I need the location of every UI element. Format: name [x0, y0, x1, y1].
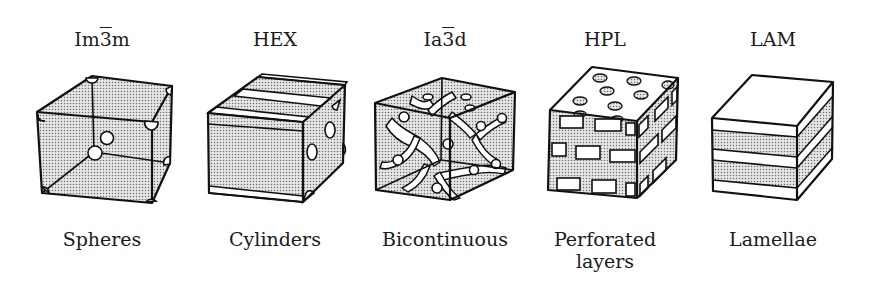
symbol-suffix: d	[454, 28, 466, 50]
phase-name-spheres: Spheres	[47, 228, 157, 250]
spheres-cube-icon	[37, 76, 172, 203]
symbol-suffix: m	[112, 28, 130, 50]
lamellae-cube-icon	[712, 75, 833, 200]
phase-name-cylinders: Cylinders	[215, 228, 335, 250]
phase-symbol-hpl: HPL	[565, 28, 645, 50]
symbol-overbar-digit: 3	[442, 28, 454, 50]
phase-symbol-ia3d: Ia3d	[405, 28, 485, 50]
symbol-prefix: Im	[74, 28, 100, 50]
phase-name-lamellae: Lamellae	[718, 228, 828, 250]
phase-name-perforated-layers: Perforated layers	[550, 228, 660, 272]
phase-name-bicontinuous: Bicontinuous	[370, 228, 520, 250]
name-line-1: Perforated	[550, 228, 660, 250]
cylinders-cube-icon	[208, 74, 347, 202]
bicontinuous-cube-icon	[375, 78, 515, 200]
phase-symbol-lam: LAM	[733, 28, 813, 50]
name-line-2: layers	[550, 250, 660, 272]
phase-symbol-hex: HEX	[235, 28, 315, 50]
symbol-overbar-digit: 3	[100, 28, 112, 50]
symbol-prefix: Ia	[423, 28, 442, 50]
phase-symbol-im3m: Im3m	[62, 28, 142, 50]
perforated-layers-cube-icon	[548, 67, 678, 198]
symbol-prefix: HPL	[584, 28, 626, 50]
symbol-prefix: LAM	[750, 28, 796, 50]
symbol-prefix: HEX	[253, 28, 297, 50]
